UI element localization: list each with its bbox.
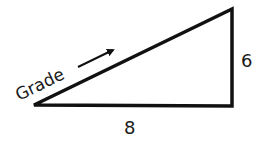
triangle-shape [34,9,232,106]
horizontal-side-label: 8 [124,117,135,138]
grade-arrow-icon [78,50,113,67]
vertical-side-label: 6 [241,50,252,71]
right-triangle-diagram: Grade 6 8 [0,0,268,144]
